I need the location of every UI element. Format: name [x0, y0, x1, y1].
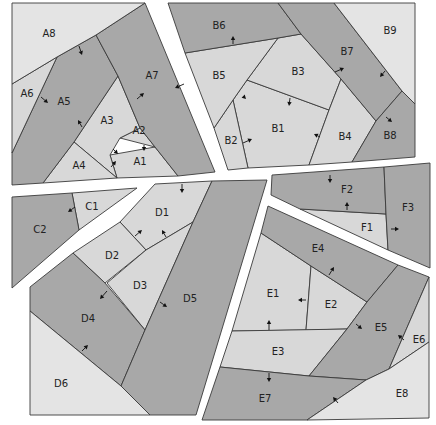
piece-label-b5: B5 — [212, 70, 225, 81]
piece-label-e5: E5 — [375, 322, 388, 333]
piece-label-a4: A4 — [72, 160, 85, 171]
arrow-icon — [113, 149, 118, 154]
piece-f3 — [384, 163, 430, 268]
piece-label-a3: A3 — [100, 115, 113, 126]
piece-label-e7: E7 — [259, 393, 272, 404]
piece-label-b2: B2 — [224, 135, 237, 146]
piece-label-a6: A6 — [20, 88, 33, 99]
piece-label-b9: B9 — [383, 25, 396, 36]
piece-label-d1: D1 — [155, 207, 169, 218]
piece-label-d3: D3 — [133, 280, 147, 291]
piece-label-b7: B7 — [340, 46, 353, 57]
piece-label-e3: E3 — [272, 346, 285, 357]
piece-label-d5: D5 — [183, 293, 197, 304]
piece-label-b3: B3 — [291, 66, 304, 77]
piece-label-c2: C2 — [33, 224, 46, 235]
pieces-layer — [12, 3, 430, 420]
piece-label-e2: E2 — [325, 299, 338, 310]
piece-label-b8: B8 — [383, 130, 396, 141]
piece-label-f2: F2 — [341, 184, 353, 195]
piece-label-e4: E4 — [312, 243, 325, 254]
piece-label-f1: F1 — [361, 222, 373, 233]
piece-label-b1: B1 — [271, 123, 284, 134]
piece-label-a1: A1 — [133, 156, 146, 167]
piece-label-b6: B6 — [212, 20, 225, 31]
piece-label-a2: A2 — [132, 125, 145, 136]
piece-f2 — [271, 167, 386, 214]
piece-label-a7: A7 — [145, 70, 158, 81]
piece-label-f3: F3 — [402, 202, 414, 213]
piece-label-a8: A8 — [42, 28, 55, 39]
piece-label-c1: C1 — [85, 201, 98, 212]
section-b — [168, 3, 415, 170]
piece-label-d4: D4 — [81, 313, 95, 324]
quilt-diagram: A1A2A3A4A5A6A7A8B1B2B3B4B5B6B7B8B9C1C2D1… — [0, 0, 436, 425]
piece-label-d2: D2 — [105, 250, 119, 261]
piece-label-a5: A5 — [57, 96, 70, 107]
piece-label-e8: E8 — [396, 388, 409, 399]
piece-label-b4: B4 — [338, 131, 351, 142]
piece-label-e1: E1 — [267, 288, 280, 299]
piece-label-e6: E6 — [413, 334, 426, 345]
piece-label-d6: D6 — [54, 378, 68, 389]
